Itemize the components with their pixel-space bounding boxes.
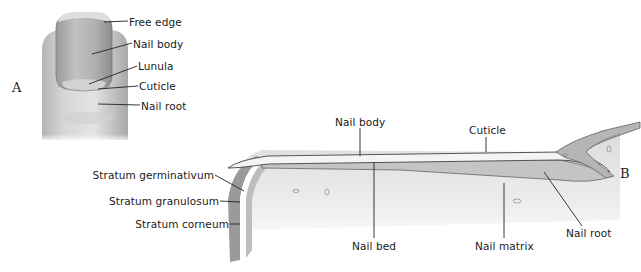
label-nail-matrix: Nail matrix <box>475 240 534 252</box>
label-nail-body-b: Nail body <box>335 116 385 128</box>
nail-illustrations <box>0 0 641 272</box>
label-free-edge: Free edge <box>129 16 182 28</box>
label-nail-bed: Nail bed <box>352 240 396 252</box>
panel-letter-a: A <box>12 80 21 95</box>
label-stratum-germinativum: Stratum germinativum <box>90 169 214 181</box>
label-cuticle-a: Cuticle <box>139 80 176 92</box>
label-stratum-granulosum: Stratum granulosum <box>90 195 219 207</box>
nail-cross-section <box>228 122 640 262</box>
label-nail-body-a: Nail body <box>133 38 183 50</box>
label-stratum-corneum: Stratum corneum <box>100 218 229 230</box>
label-nail-root-b: Nail root <box>566 227 611 239</box>
label-lunula: Lunula <box>138 60 174 72</box>
panel-letter-b: B <box>620 166 630 181</box>
label-cuticle-b: Cuticle <box>469 124 506 136</box>
nail-anatomy-figure: A Free edge Nail body Lunula Cuticle Nai… <box>0 0 641 272</box>
finger-illustration <box>40 12 132 142</box>
label-nail-root-a: Nail root <box>141 100 186 112</box>
